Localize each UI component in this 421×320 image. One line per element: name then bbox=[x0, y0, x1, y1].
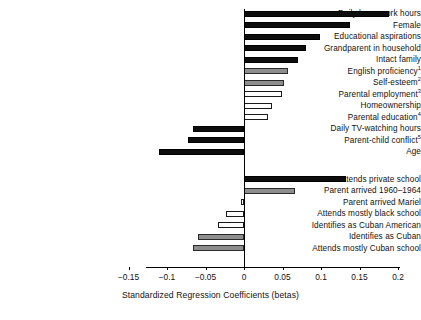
bar-label: Intact family bbox=[180, 54, 421, 66]
bar bbox=[244, 11, 389, 17]
bar bbox=[244, 91, 282, 97]
bar-label: Parent arrived 1960–1964 bbox=[180, 185, 421, 197]
x-tick-mark bbox=[206, 267, 207, 270]
chart-row: English proficiency1 bbox=[0, 66, 421, 78]
x-tick-mark bbox=[167, 267, 168, 270]
zero-axis-line bbox=[244, 9, 245, 267]
bar bbox=[244, 34, 320, 40]
bar bbox=[244, 80, 284, 86]
x-tick-mark bbox=[360, 267, 361, 270]
bar-label: English proficiency1 bbox=[180, 66, 421, 78]
x-tick-label: 0.05 bbox=[263, 272, 303, 282]
bar bbox=[198, 234, 244, 240]
x-axis-title: Standardized Regression Coefficients (be… bbox=[0, 290, 421, 300]
x-tick-mark bbox=[321, 267, 322, 270]
chart-row: Daily TV-watching hours bbox=[0, 123, 421, 135]
bar bbox=[244, 176, 346, 182]
x-tick-label: −0.05 bbox=[186, 272, 226, 282]
bar bbox=[159, 149, 244, 155]
x-tick-label: −0.15 bbox=[109, 272, 149, 282]
x-tick-label: 0.15 bbox=[340, 272, 380, 282]
x-tick-mark bbox=[129, 267, 130, 270]
x-tick-mark bbox=[398, 267, 399, 270]
chart-row: Intact family bbox=[0, 54, 421, 66]
chart-row: Attends mostly Cuban school bbox=[0, 243, 421, 255]
bar bbox=[226, 211, 244, 217]
x-tick-label: 0.2 bbox=[378, 272, 418, 282]
bar bbox=[244, 68, 288, 74]
chart-row: Daily homework hours bbox=[0, 8, 421, 20]
bar-label: Parental employment3 bbox=[180, 89, 421, 101]
bar bbox=[188, 137, 244, 143]
chart-row: Parent arrived Mariel bbox=[0, 197, 421, 209]
chart-row: Parental employment3 bbox=[0, 89, 421, 101]
chart-row: Female bbox=[0, 20, 421, 32]
bar-label: Identifies as Cuban American bbox=[180, 220, 421, 232]
chart-row: Parental education4 bbox=[0, 112, 421, 124]
chart-row: Identifies as Cuban American bbox=[0, 220, 421, 232]
bar bbox=[244, 57, 298, 63]
bar-label: Attends mostly black school bbox=[180, 208, 421, 220]
bar bbox=[193, 245, 244, 251]
x-tick-label: 0 bbox=[224, 272, 264, 282]
chart-row: Educational aspirations bbox=[0, 31, 421, 43]
chart-row: Identifies as Cuban bbox=[0, 231, 421, 243]
chart-row: Parent arrived 1960–1964 bbox=[0, 185, 421, 197]
chart-row: Attends mostly black school bbox=[0, 208, 421, 220]
bar bbox=[193, 126, 244, 132]
bar bbox=[244, 103, 272, 109]
chart-row: Age bbox=[0, 146, 421, 158]
bar-label: Self-esteem2 bbox=[180, 77, 421, 89]
bar-label: Parent arrived Mariel bbox=[180, 197, 421, 209]
bar bbox=[244, 114, 268, 120]
x-tick-label: −0.1 bbox=[147, 272, 187, 282]
bar bbox=[244, 188, 295, 194]
bar bbox=[244, 22, 350, 28]
chart-row: Grandparent in household bbox=[0, 43, 421, 55]
chart-row: Self-esteem2 bbox=[0, 77, 421, 89]
chart-row: Parent-child conflict5 bbox=[0, 135, 421, 147]
chart-row: Homeownership bbox=[0, 100, 421, 112]
bar bbox=[218, 222, 244, 228]
bar-label: Homeownership bbox=[180, 100, 421, 112]
chart-row: Attends private school bbox=[0, 174, 421, 186]
bar bbox=[244, 45, 306, 51]
x-axis-line bbox=[146, 267, 400, 268]
x-tick-label: 0.1 bbox=[301, 272, 341, 282]
bar-label: Parental education4 bbox=[180, 112, 421, 124]
regression-coefficient-chart: Daily homework hoursFemaleEducational as… bbox=[0, 0, 421, 320]
x-tick-mark bbox=[283, 267, 284, 270]
x-tick-mark bbox=[244, 267, 245, 270]
